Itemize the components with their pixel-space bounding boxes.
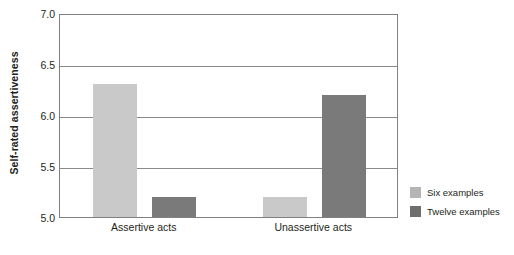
x-tick-label: Assertive acts bbox=[111, 221, 176, 233]
y-axis-title-text: Self-rated assertiveness bbox=[8, 51, 20, 174]
bar bbox=[263, 197, 307, 217]
y-tick-label: 7.0 bbox=[40, 8, 55, 20]
bars-layer bbox=[60, 15, 397, 217]
bar bbox=[322, 95, 366, 217]
bar bbox=[93, 84, 137, 217]
legend-swatch-icon bbox=[410, 206, 421, 217]
y-tick-label: 5.0 bbox=[40, 212, 55, 224]
y-tick-label: 6.5 bbox=[40, 59, 55, 71]
y-axis-title: Self-rated assertiveness bbox=[0, 0, 28, 225]
legend-label: Twelve examples bbox=[427, 206, 500, 217]
x-tick-label: Unassertive acts bbox=[274, 221, 352, 233]
bar bbox=[152, 197, 196, 217]
legend-label: Six examples bbox=[427, 187, 484, 198]
legend-item: Twelve examples bbox=[410, 202, 514, 221]
bar-chart-figure: Self-rated assertiveness 5.05.56.06.57.0… bbox=[0, 0, 514, 255]
y-tick-label: 6.0 bbox=[40, 110, 55, 122]
legend-item: Six examples bbox=[410, 183, 514, 202]
legend-swatch-icon bbox=[410, 187, 421, 198]
y-tick-label: 5.5 bbox=[40, 161, 55, 173]
x-axis-tick-labels: Assertive actsUnassertive acts bbox=[59, 221, 398, 241]
chart-legend: Six examplesTwelve examples bbox=[410, 183, 514, 221]
y-axis-tick-labels: 5.05.56.06.57.0 bbox=[28, 0, 59, 230]
plot-area bbox=[59, 14, 398, 218]
